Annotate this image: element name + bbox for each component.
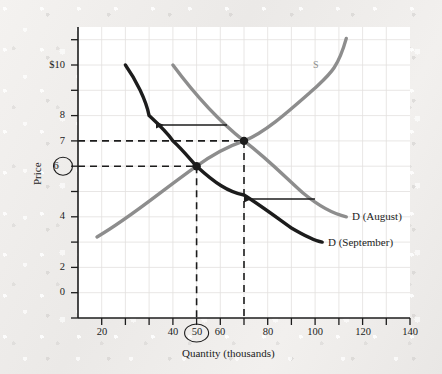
y-tick-label-10: $10	[33, 60, 65, 71]
x-axis-title: Quantity (thousands)	[182, 348, 275, 359]
august-equilibrium-point	[240, 137, 248, 145]
y-tick-label-7: 7	[47, 136, 65, 147]
demand-august-label: D (August)	[352, 211, 402, 222]
x-tick-label-40: 40	[165, 327, 181, 338]
x-tick-label-100: 100	[304, 327, 326, 338]
y-axis-title: Price	[32, 162, 43, 185]
y-tick-label-6: 6	[47, 161, 65, 172]
x-tick-label-60: 60	[212, 327, 228, 338]
x-axis-ticks	[102, 318, 410, 325]
demand-september-label: D (September)	[328, 237, 393, 248]
supply-demand-plot	[0, 0, 442, 374]
x-tick-label-120: 120	[352, 327, 374, 338]
y-tick-label-8: 8	[47, 110, 65, 121]
y-tick-label-4: 4	[47, 211, 65, 222]
supply-curve-label: S	[313, 60, 319, 70]
september-equilibrium-point	[192, 162, 200, 170]
x-tick-label-50: 50	[189, 327, 205, 338]
y-tick-label-2: 2	[47, 262, 65, 273]
economics-figure: 0 2 4 6 7 8 $10 20 40 50 60 80 100 120 1…	[0, 0, 442, 374]
x-tick-label-140: 140	[399, 327, 421, 338]
y-tick-label-0: 0	[47, 287, 65, 298]
x-tick-label-20: 20	[94, 327, 110, 338]
x-tick-label-80: 80	[260, 327, 276, 338]
y-axis-ticks	[71, 40, 78, 318]
